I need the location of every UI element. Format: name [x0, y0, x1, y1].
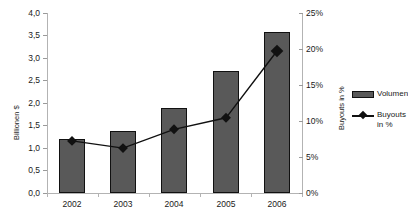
x-axis-label-2006: 2006 [257, 199, 297, 209]
x-axis-label-2002: 2002 [52, 199, 92, 209]
right-axis-tick-label: 5% [306, 152, 332, 162]
right-axis-tickmark [299, 85, 303, 86]
marker-2006 [271, 45, 284, 58]
marker-2002 [67, 136, 77, 146]
right-axis-tick-label: 10% [306, 116, 332, 126]
right-axis-tickmark [299, 193, 303, 194]
legend-bar-swatch-icon [352, 91, 374, 98]
right-axis-tickmark [299, 13, 303, 14]
legend-item-volumen[interactable]: Volumen [352, 89, 408, 99]
legend-label-buyouts: Buyouts in % [377, 110, 406, 129]
legend-label-buyouts-line1: Buyouts [377, 110, 406, 119]
right-axis-tick-label: 0% [306, 188, 332, 198]
right-axis-title: Buyouts in % [337, 86, 346, 130]
right-axis-tickmark [299, 121, 303, 122]
x-axis-tickmark [47, 193, 48, 197]
marker-2003 [118, 143, 128, 153]
x-axis-label-2003: 2003 [103, 199, 143, 209]
legend-line-marker-icon [352, 111, 374, 120]
x-axis-label-2004: 2004 [154, 199, 194, 209]
right-axis-tick-label: 20% [306, 44, 332, 54]
x-axis-tickmark [98, 193, 99, 197]
legend-label-buyouts-line2: in % [377, 120, 393, 129]
marker-2004 [169, 124, 179, 134]
right-axis-tickmark [299, 157, 303, 158]
right-axis-tick-label: 15% [306, 80, 332, 90]
legend-label-volumen: Volumen [377, 89, 408, 99]
legend-item-buyouts[interactable]: Buyouts in % [352, 110, 406, 129]
x-axis-tickmark [149, 193, 150, 197]
x-axis-label-2005: 2005 [206, 199, 246, 209]
right-axis-tick-label: 25% [306, 8, 332, 18]
x-axis-tickmark [251, 193, 252, 197]
line-markers [67, 45, 283, 153]
right-axis-tickmark [299, 49, 303, 50]
x-axis-tickmark [200, 193, 201, 197]
